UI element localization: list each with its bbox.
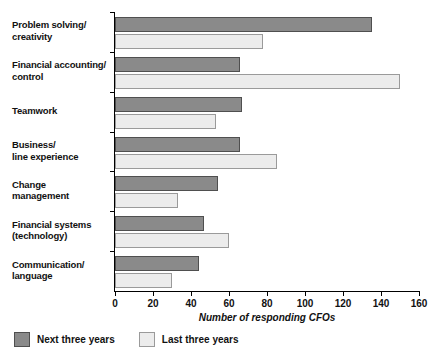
- category-label: Teamwork: [12, 105, 116, 117]
- category-label: Communication/ language: [12, 259, 116, 282]
- bar-last-three-years: [115, 74, 400, 89]
- x-axis-tick: [229, 291, 230, 296]
- x-axis-title: Number of responding CFOs: [115, 312, 419, 323]
- bar-group: [115, 92, 419, 132]
- legend-swatch-next: [14, 332, 30, 347]
- bar-group: [115, 132, 419, 172]
- bar-last-three-years: [115, 233, 229, 248]
- bar-group: [115, 251, 419, 291]
- x-axis-tick-label: 80: [247, 298, 287, 309]
- x-axis-tick-label: 120: [323, 298, 363, 309]
- category-label: Business/ line experience: [12, 139, 116, 162]
- bar-next-three-years: [115, 97, 242, 112]
- legend-label: Next three years: [37, 334, 115, 345]
- chart-legend: Next three yearsLast three years: [14, 332, 257, 347]
- category-label: Financial systems (technology): [12, 219, 116, 242]
- legend-swatch-last: [139, 332, 155, 347]
- x-axis-tick-label: 20: [133, 298, 173, 309]
- legend-label: Last three years: [162, 334, 239, 345]
- bar-last-three-years: [115, 154, 277, 169]
- bar-next-three-years: [115, 137, 240, 152]
- bar-chart: Problem solving/ creativityFinancial acc…: [0, 0, 437, 363]
- x-axis-tick: [381, 291, 382, 296]
- legend-item: Last three years: [139, 332, 239, 347]
- category-label-column: Problem solving/ creativityFinancial acc…: [0, 12, 112, 291]
- x-axis-tick: [305, 291, 306, 296]
- bar-last-three-years: [115, 34, 263, 49]
- x-axis-tick: [115, 291, 116, 296]
- bar-group: [115, 12, 419, 52]
- x-axis-tick-label: 40: [171, 298, 211, 309]
- x-axis-tick: [267, 291, 268, 296]
- x-axis-tick: [419, 291, 420, 296]
- x-axis-tick-label: 160: [399, 298, 437, 309]
- bar-last-three-years: [115, 114, 216, 129]
- plot-area: [115, 12, 419, 291]
- bar-next-three-years: [115, 176, 218, 191]
- x-axis-tick: [153, 291, 154, 296]
- bar-last-three-years: [115, 193, 178, 208]
- bar-next-three-years: [115, 216, 204, 231]
- bar-next-three-years: [115, 256, 199, 271]
- category-label: Problem solving/ creativity: [12, 19, 116, 42]
- bar-group: [115, 171, 419, 211]
- x-axis-tick: [191, 291, 192, 296]
- category-label: Financial accounting/ control: [12, 59, 116, 82]
- bar-group: [115, 52, 419, 92]
- bar-next-three-years: [115, 17, 372, 32]
- x-axis-tick-label: 0: [95, 298, 135, 309]
- x-axis-tick-label: 140: [361, 298, 401, 309]
- bar-group: [115, 211, 419, 251]
- x-axis-tick-label: 60: [209, 298, 249, 309]
- category-label: Change management: [12, 179, 116, 202]
- x-axis-tick-label: 100: [285, 298, 325, 309]
- legend-item: Next three years: [14, 332, 115, 347]
- bar-next-three-years: [115, 57, 240, 72]
- bar-last-three-years: [115, 273, 172, 288]
- x-axis-tick: [343, 291, 344, 296]
